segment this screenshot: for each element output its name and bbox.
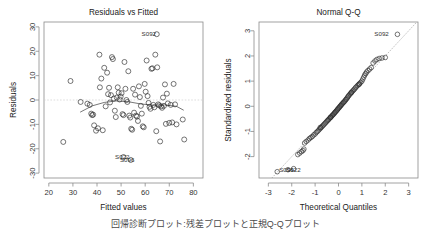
y-tick-label: 30: [28, 23, 37, 31]
residuals-vs-fitted-plot: Residuals vs Fitted20304050607080Fitted …: [0, 0, 216, 215]
x-tick-label: -1: [312, 188, 319, 197]
data-point: [100, 128, 105, 133]
y-axis-label: Residuals: [9, 82, 18, 118]
data-point: [110, 57, 115, 62]
data-point: [130, 127, 135, 132]
data-point: [145, 94, 150, 99]
data-point: [97, 85, 102, 90]
data-point: [102, 65, 107, 70]
data-point: [108, 100, 113, 105]
x-tick-label: 1: [360, 188, 364, 197]
y-tick-label: 0: [243, 104, 252, 108]
data-point: [115, 85, 120, 90]
x-tick-label: -2: [288, 188, 295, 197]
panel-residuals-vs-fitted: Residuals vs Fitted20304050607080Fitted …: [0, 0, 216, 215]
data-point: [163, 121, 168, 126]
point-label: S092: [142, 30, 157, 37]
data-point: [162, 82, 167, 87]
plot-title: Residuals vs Fitted: [89, 8, 159, 17]
data-point: [182, 137, 187, 142]
x-tick-label: 80: [189, 188, 197, 197]
data-point: [119, 91, 124, 96]
data-point: [180, 117, 185, 122]
y-tick-label: 1: [243, 79, 252, 83]
data-point: [161, 95, 166, 100]
data-point: [131, 86, 136, 91]
point-label: S092: [374, 30, 389, 37]
data-points-group: [61, 32, 187, 163]
x-tick-label: 40: [93, 188, 101, 197]
y-tick-label: 0: [28, 98, 37, 102]
data-point: [142, 81, 147, 86]
data-points-group: [275, 32, 400, 174]
data-point: [133, 92, 138, 97]
y-tick-label: -30: [28, 168, 37, 179]
x-axis-label: Theoretical Quantiles: [300, 203, 377, 212]
x-tick-label: 3: [407, 188, 411, 197]
point-label: S022: [286, 166, 301, 173]
data-point: [174, 122, 179, 127]
x-axis-label: Fitted values: [100, 203, 146, 212]
data-point: [121, 113, 126, 118]
data-point: [103, 104, 108, 109]
y-tick-label: -10: [28, 119, 37, 130]
data-point: [123, 86, 128, 91]
data-point: [99, 76, 104, 81]
x-tick-label: 60: [141, 188, 149, 197]
data-point: [112, 108, 117, 113]
loess-smoother-line: [80, 101, 184, 112]
x-tick-label: 20: [45, 188, 53, 197]
y-tick-label: -1: [243, 128, 252, 135]
data-point: [140, 124, 145, 129]
data-point: [137, 95, 142, 100]
y-tick-label: 20: [28, 47, 37, 55]
data-point: [139, 111, 144, 116]
data-point: [158, 139, 163, 144]
data-point: [153, 52, 158, 57]
data-point: [107, 85, 112, 90]
data-point: [395, 32, 400, 37]
data-point: [106, 92, 111, 97]
data-point: [171, 81, 176, 86]
y-tick-label: 10: [28, 71, 37, 79]
normal-qq-plot: Normal Q-Q-3-2-10123Theoretical Quantile…: [216, 0, 431, 215]
y-tick-label: 3: [243, 29, 252, 33]
y-tick-label: 2: [243, 54, 252, 58]
x-tick-label: 0: [336, 188, 340, 197]
x-tick-label: 30: [69, 188, 77, 197]
data-point: [164, 91, 169, 96]
data-point: [136, 84, 141, 89]
data-point: [105, 70, 110, 75]
data-point: [383, 55, 388, 60]
data-point: [309, 135, 314, 140]
data-point: [111, 96, 116, 101]
plot-title: Normal Q-Q: [316, 8, 360, 17]
figure-caption: 回帰診断プロット:残差プロットと正規Q-Qプロット: [0, 219, 431, 230]
data-point: [68, 78, 73, 83]
x-tick-label: 70: [165, 188, 173, 197]
x-tick-label: -3: [265, 188, 272, 197]
data-point: [108, 93, 113, 98]
data-point: [141, 125, 146, 130]
plot-frame: [259, 22, 418, 178]
data-point: [126, 69, 131, 74]
point-label: S096: [120, 156, 135, 163]
data-point: [97, 52, 102, 57]
y-tick-label: -20: [28, 143, 37, 154]
data-point: [144, 58, 149, 63]
data-point: [122, 59, 127, 64]
y-axis-label: Standardized residuals: [224, 58, 233, 141]
data-point: [155, 65, 160, 70]
data-point: [61, 139, 66, 144]
panel-normal-qq: Normal Q-Q-3-2-10123Theoretical Quantile…: [216, 0, 431, 215]
figure-root: Residuals vs Fitted20304050607080Fitted …: [0, 0, 431, 234]
data-point: [154, 129, 159, 134]
y-tick-label: -2: [243, 153, 252, 160]
x-tick-label: 50: [117, 188, 125, 197]
x-tick-label: 2: [383, 188, 387, 197]
data-point: [113, 115, 118, 120]
